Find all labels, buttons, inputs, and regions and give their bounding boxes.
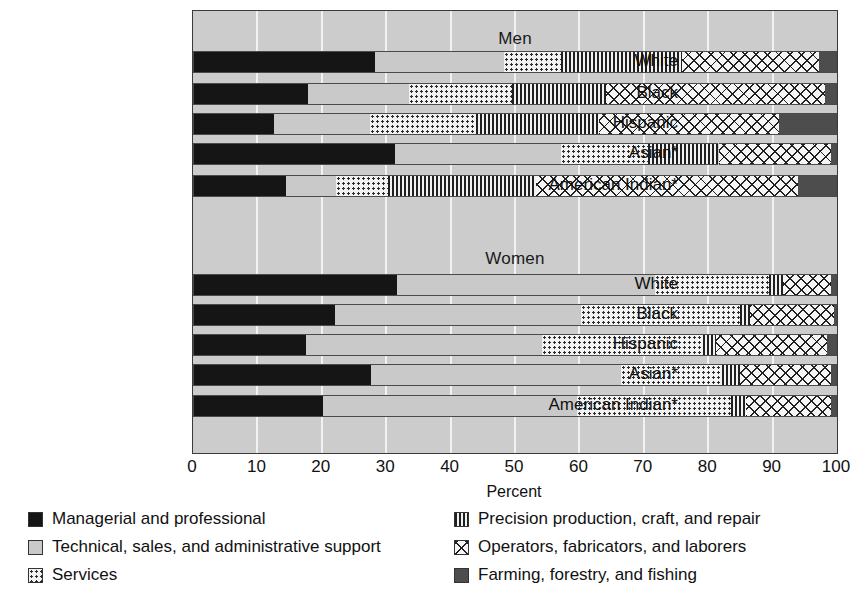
bar-segment-precision-production-craft-and-repair — [769, 274, 783, 296]
bar-segment-farming-forestry-and-fishing — [831, 395, 837, 417]
bar-segment-farming-forestry-and-fishing — [831, 364, 837, 386]
bar-segment-precision-production-craft-and-repair — [722, 364, 740, 386]
legend-item-services: Services — [28, 561, 458, 589]
bar-segment-managerial-and-professional — [193, 175, 286, 197]
bar-segment-services — [504, 51, 561, 73]
bar-segment-managerial-and-professional — [193, 113, 274, 135]
bar-segment-services — [409, 83, 512, 105]
y-axis-label-men-asian: Asian* — [629, 142, 678, 164]
chart-container: MenWomen WhiteBlackHispanicAsian*America… — [0, 0, 866, 606]
bar-segment-technical-sales-and-administrative-support — [323, 395, 577, 417]
bar-segment-operators-fabricators-and-laborers — [719, 143, 831, 165]
x-tick-50: 50 — [484, 457, 544, 477]
gridline-60 — [578, 11, 580, 453]
y-axis-label-men-american-indian: American Indian* — [549, 174, 678, 196]
y-axis-label-men-black: Black — [636, 82, 678, 104]
plot-area: MenWomen — [192, 10, 838, 454]
x-tick-60: 60 — [548, 457, 608, 477]
bar-segment-managerial-and-professional — [193, 83, 308, 105]
y-axis-label-women-hispanic: Hispanic — [613, 333, 678, 355]
legend-item-precision-production-craft-and-repair: Precision production, craft, and repair — [454, 505, 866, 533]
bar-segment-precision-production-craft-and-repair — [731, 395, 745, 417]
bar-segment-precision-production-craft-and-repair — [476, 113, 598, 135]
x-tick-70: 70 — [613, 457, 673, 477]
bar-segment-managerial-and-professional — [193, 274, 397, 296]
bar-segment-services — [370, 113, 476, 135]
x-tick-40: 40 — [420, 457, 480, 477]
bar-segment-managerial-and-professional — [193, 364, 371, 386]
bar-segment-managerial-and-professional — [193, 334, 306, 356]
bar-segment-technical-sales-and-administrative-support — [397, 274, 655, 296]
legend-item-operators-fabricators-and-laborers: Operators, fabricators, and laborers — [454, 533, 866, 561]
x-tick-100: 100 — [806, 457, 866, 477]
bar-segment-farming-forestry-and-fishing — [819, 51, 837, 73]
gridline-20 — [321, 11, 323, 453]
x-tick-20: 20 — [291, 457, 351, 477]
bar-women-asian — [193, 364, 837, 386]
bar-segment-managerial-and-professional — [193, 143, 395, 165]
bar-women-black — [193, 304, 837, 326]
bar-women-hispanic — [193, 334, 837, 356]
bar-segment-technical-sales-and-administrative-support — [375, 51, 504, 73]
bar-women-american-indian — [193, 395, 837, 417]
bar-segment-technical-sales-and-administrative-support — [306, 334, 542, 356]
legend-swatch-operators-fabricators-and-laborers — [454, 540, 469, 555]
bar-segment-precision-production-craft-and-repair — [388, 175, 535, 197]
bar-segment-farming-forestry-and-fishing — [831, 274, 837, 296]
x-tick-90: 90 — [742, 457, 802, 477]
legend-swatch-managerial-and-professional — [28, 512, 43, 527]
bar-women-white — [193, 274, 837, 296]
x-tick-0: 0 — [162, 457, 222, 477]
bar-segment-managerial-and-professional — [193, 51, 375, 73]
gridline-40 — [450, 11, 452, 453]
bar-segment-precision-production-craft-and-repair — [740, 304, 750, 326]
legend-swatch-precision-production-craft-and-repair — [454, 512, 469, 527]
y-axis-label-women-black: Black — [636, 303, 678, 325]
bar-segment-precision-production-craft-and-repair — [703, 334, 716, 356]
legend-swatch-services — [28, 568, 43, 583]
x-tick-80: 80 — [677, 457, 737, 477]
bar-segment-operators-fabricators-and-laborers — [746, 395, 831, 417]
y-axis-label-men-hispanic: Hispanic — [613, 112, 678, 134]
bar-segment-farming-forestry-and-fishing — [827, 334, 837, 356]
bar-segment-managerial-and-professional — [193, 304, 335, 326]
bar-segment-farming-forestry-and-fishing — [798, 175, 837, 197]
legend-swatch-technical-sales-and-administrative-support — [28, 540, 43, 555]
x-tick-10: 10 — [226, 457, 286, 477]
legend-label-operators-fabricators-and-laborers: Operators, fabricators, and laborers — [478, 537, 746, 557]
bar-segment-farming-forestry-and-fishing — [825, 83, 837, 105]
panel-title-women: Women — [193, 249, 837, 269]
bar-segment-managerial-and-professional — [193, 395, 323, 417]
bar-men-american-indian — [193, 175, 837, 197]
bar-segment-farming-forestry-and-fishing — [831, 143, 837, 165]
bar-segment-operators-fabricators-and-laborers — [740, 364, 831, 386]
bar-segment-farming-forestry-and-fishing — [779, 113, 837, 135]
legend-label-services: Services — [52, 565, 117, 585]
legend-label-technical-sales-and-administrative-support: Technical, sales, and administrative sup… — [52, 537, 381, 557]
bar-segment-technical-sales-and-administrative-support — [335, 304, 581, 326]
bar-segment-services — [336, 175, 388, 197]
bar-segment-operators-fabricators-and-laborers — [716, 334, 827, 356]
gridline-30 — [385, 11, 387, 453]
y-axis-label-men-white: White — [635, 50, 678, 72]
bar-segment-technical-sales-and-administrative-support — [286, 175, 336, 197]
gridline-70 — [643, 11, 645, 453]
bar-segment-technical-sales-and-administrative-support — [308, 83, 409, 105]
y-axis-label-women-white: White — [635, 273, 678, 295]
bar-segment-operators-fabricators-and-laborers — [682, 51, 819, 73]
bar-men-asian — [193, 143, 837, 165]
bar-segment-operators-fabricators-and-laborers — [750, 304, 834, 326]
legend-label-precision-production-craft-and-repair: Precision production, craft, and repair — [478, 509, 761, 529]
y-axis-label-women-asian: Asian* — [629, 363, 678, 385]
bar-segment-technical-sales-and-administrative-support — [371, 364, 622, 386]
legend-item-technical-sales-and-administrative-support: Technical, sales, and administrative sup… — [28, 533, 458, 561]
chart-legend: Managerial and professionalTechnical, sa… — [14, 505, 854, 601]
bar-men-hispanic — [193, 113, 837, 135]
bar-segment-precision-production-craft-and-repair — [512, 83, 606, 105]
legend-label-managerial-and-professional: Managerial and professional — [52, 509, 266, 529]
panel-title-men: Men — [193, 29, 837, 49]
bar-men-white — [193, 51, 837, 73]
x-tick-30: 30 — [355, 457, 415, 477]
bar-segment-technical-sales-and-administrative-support — [395, 143, 561, 165]
legend-item-farming-forestry-and-fishing: Farming, forestry, and fishing — [454, 561, 866, 589]
